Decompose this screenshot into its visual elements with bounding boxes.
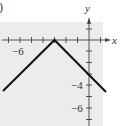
y-tick-label-neg6: −6 — [71, 102, 83, 114]
x-tick-label-neg6: −6 — [12, 45, 24, 57]
graph: ) y x −6 −4 −6 — [0, 0, 120, 126]
x-axis-arrow-icon — [105, 38, 111, 42]
y-axis-label: y — [84, 2, 90, 14]
figure-label: ) — [0, 0, 3, 14]
y-axis-arrow-icon — [87, 17, 91, 24]
x-axis-label: x — [111, 34, 117, 46]
y-tick-label-neg4: −4 — [71, 79, 83, 91]
